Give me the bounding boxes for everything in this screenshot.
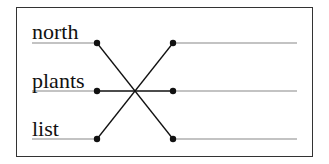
left-dot-2 — [94, 88, 100, 94]
right-dot-2 — [170, 88, 176, 94]
right-dot-3 — [170, 136, 176, 142]
word-plants: plants — [32, 70, 85, 92]
word-north: north — [32, 21, 78, 43]
right-dot-1 — [170, 40, 176, 46]
left-dot-3 — [94, 136, 100, 142]
word-list: list — [32, 118, 59, 140]
left-dot-1 — [94, 40, 100, 46]
